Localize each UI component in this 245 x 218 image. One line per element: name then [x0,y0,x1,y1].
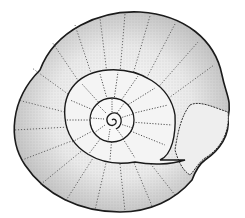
ammonite-svg [0,0,245,218]
ammonite-illustration [0,0,245,218]
